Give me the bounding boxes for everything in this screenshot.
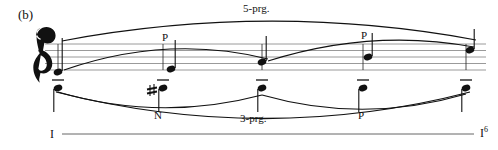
label-prolongation-p-2: P [361,30,367,41]
label-5-prg: 5-prg. [243,3,269,14]
note-lower-1 [52,80,64,112]
note-lower-5 [460,80,472,112]
sharp-accidental-icon [147,84,157,96]
label-passing-p-bass: P [358,110,364,121]
note-upper-5 [465,29,475,55]
roman-numeral-start: I [50,128,54,140]
slur-lower-inner-2 [262,94,466,109]
label-neighbor-n: N [154,110,162,121]
slur-lower-inner-1 [58,92,262,108]
roman-numeral-end: I6 [480,126,488,139]
slur-upper-outer-5prg [62,21,476,41]
note-lower-4 [357,80,369,112]
music-notation-canvas [0,0,498,150]
label-prolongation-p-1: P [162,32,168,43]
voice-leading-figure: (b) 5-prg. 3-prg. P P N P I I6 [0,0,498,150]
label-3-prg: 3-prg. [240,113,266,124]
upper-voice-notes [53,29,475,77]
treble-clef-icon [33,27,55,83]
slur-upper-inner-1 [64,49,268,70]
roman-numeral-end-figure: 6 [484,125,488,134]
lower-voice-notes [52,80,472,112]
figure-label: (b) [18,8,33,21]
